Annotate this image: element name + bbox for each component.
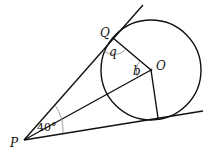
angle-label-40: 40°: [37, 121, 57, 134]
label-q: Q: [100, 26, 110, 40]
radius-ot: [151, 70, 158, 118]
label-p: P: [9, 136, 19, 150]
geometry-diagram: Q O P q b 40°: [0, 0, 212, 161]
label-o: O: [156, 59, 166, 73]
tangent-line-pq: [24, 5, 143, 140]
angle-label-q: q: [109, 45, 117, 59]
centre-dot: [150, 69, 153, 72]
angle-label-b: b: [133, 64, 141, 78]
